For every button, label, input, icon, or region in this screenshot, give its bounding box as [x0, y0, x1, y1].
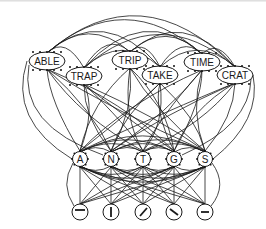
word-node-time: TIME [184, 52, 220, 72]
letter-node-n: N [102, 150, 120, 168]
letter-label: G [170, 154, 178, 165]
feature-node-diagonal-left-icon [166, 204, 182, 220]
letter-node-s: S [196, 150, 214, 168]
word-node-take: TAKE [142, 65, 178, 85]
letter-label: A [77, 154, 84, 165]
word-node-trap: TRAP [66, 66, 102, 86]
letter-level: ANTGS [71, 150, 214, 168]
word-label: TAKE [147, 70, 173, 81]
feature-node-horizontal-bar-middle-icon [197, 204, 213, 220]
letter-node-g: G [165, 150, 183, 168]
word-label: TIME [190, 57, 214, 68]
network-diagram: ABLETRAPTRIPTAKETIMECRAT ANTGS [0, 0, 266, 229]
letter-node-a: A [71, 150, 89, 168]
connection-edges [23, 16, 255, 206]
letter-label: N [107, 154, 114, 165]
letter-label: T [140, 154, 146, 165]
feature-node-horizontal-bar-top-icon [72, 204, 88, 220]
feature-node-vertical-bar-icon [103, 204, 119, 220]
word-label: TRIP [119, 55, 142, 66]
word-label: TRAP [71, 71, 98, 82]
letter-label: S [202, 154, 209, 165]
word-node-trip: TRIP [112, 50, 148, 70]
word-node-able: ABLE [29, 51, 65, 71]
feature-node-diagonal-right-icon [135, 204, 151, 220]
word-label: ABLE [34, 56, 60, 67]
letter-node-t: T [134, 150, 152, 168]
word-label: CRAT [222, 70, 248, 81]
feature-level [72, 204, 213, 220]
word-node-crat: CRAT [217, 65, 253, 85]
word-level: ABLETRAPTRIPTAKETIMECRAT [29, 50, 253, 86]
